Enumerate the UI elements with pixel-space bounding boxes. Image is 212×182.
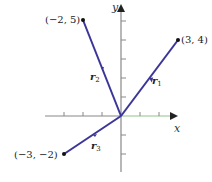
y-axis-label: y xyxy=(111,1,119,14)
vector-label-r2: r2 xyxy=(90,71,100,84)
x-axis-label: x xyxy=(174,122,181,135)
y-ticks xyxy=(121,21,126,154)
vector-r1: (3, 4) r1 xyxy=(121,34,208,116)
point-neg2-5 xyxy=(81,18,85,22)
point-label-neg3-neg2: (−3, −2) xyxy=(14,149,58,160)
point-neg3-neg2 xyxy=(62,152,66,156)
point-label-neg2-5: (−2, 5) xyxy=(45,14,80,25)
vector-diagram: x y (3, 4) r1 (−2, 5) r2 (− xyxy=(0,0,212,182)
vector-r3: (−3, −2) r3 xyxy=(14,116,121,160)
x-axis: x xyxy=(45,112,181,135)
y-axis: y xyxy=(111,1,126,172)
vector-label-r1: r1 xyxy=(152,75,162,88)
point-3-4 xyxy=(176,38,180,42)
vector-r2: (−2, 5) r2 xyxy=(45,14,121,116)
vector-label-r3: r3 xyxy=(91,140,101,153)
point-label-3-4: (3, 4) xyxy=(181,34,208,45)
